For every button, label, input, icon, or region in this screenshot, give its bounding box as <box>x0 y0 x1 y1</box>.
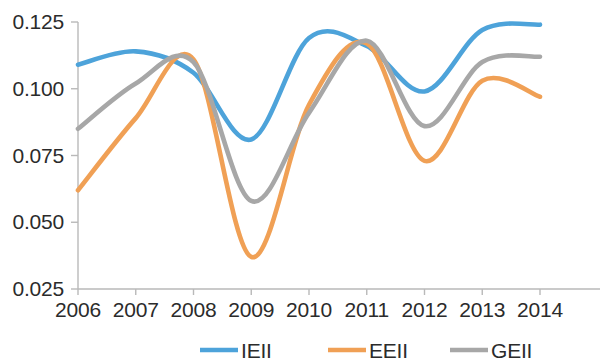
x-tick-labels: 200620072008200920102011201220132014 <box>55 298 563 321</box>
x-tick-label: 2006 <box>55 298 101 321</box>
x-tick-label: 2007 <box>113 298 159 321</box>
x-tick-label: 2012 <box>402 298 448 321</box>
series-line-geii <box>78 41 540 202</box>
y-tick-label: 0.125 <box>12 10 64 33</box>
x-tick-label: 2008 <box>171 298 217 321</box>
x-tick-label: 2011 <box>345 298 389 321</box>
x-tick-label: 2009 <box>228 298 274 321</box>
series-line-ieii <box>78 23 540 139</box>
y-tick-label: 0.050 <box>12 210 64 233</box>
x-tick-label: 2013 <box>459 298 505 321</box>
chart-legend: IEIIEEIIGEII <box>200 339 532 362</box>
y-axis-group: 0.0250.0500.0750.1000.125 <box>12 10 78 300</box>
x-tick-marks <box>78 289 540 295</box>
y-tick-marks <box>71 22 78 289</box>
y-tick-label: 0.100 <box>12 77 64 100</box>
chart-canvas: 0.0250.0500.0750.1000.125 20062007200820… <box>0 0 605 364</box>
y-tick-label: 0.075 <box>12 144 64 167</box>
x-tick-label: 2014 <box>517 298 563 321</box>
series-lines <box>78 23 540 257</box>
line-chart: 0.0250.0500.0750.1000.125 20062007200820… <box>0 0 605 364</box>
legend-label-ieii: IEII <box>241 339 272 362</box>
x-axis-group: 200620072008200920102011201220132014 <box>55 289 600 321</box>
legend-label-geii: GEII <box>491 339 532 362</box>
y-tick-label: 0.025 <box>12 277 64 300</box>
legend-label-eeii: EEII <box>369 339 408 362</box>
y-tick-labels: 0.0250.0500.0750.1000.125 <box>12 10 64 300</box>
x-tick-label: 2010 <box>286 298 332 321</box>
